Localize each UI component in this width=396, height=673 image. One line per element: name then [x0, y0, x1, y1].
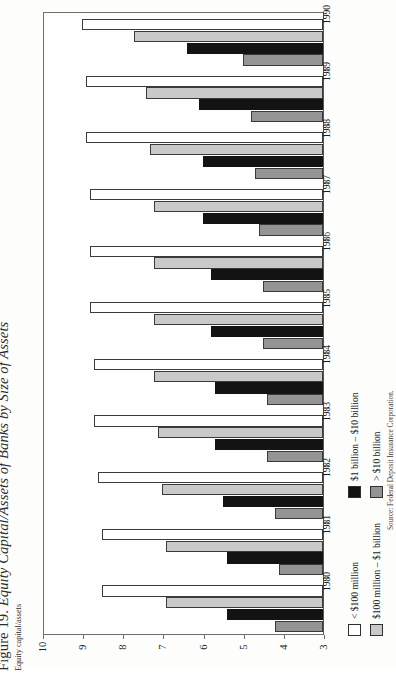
bar-1985-series-1 [90, 302, 323, 313]
value-tick-label-6: 6 [198, 634, 209, 660]
bar-1981-series-2 [166, 541, 323, 552]
bar-1985-series-3 [211, 326, 323, 337]
bar-1980-series-4 [275, 621, 323, 632]
bar-1983-series-3 [215, 439, 323, 450]
year-tick [324, 295, 329, 296]
value-tick-label-9: 9 [77, 634, 88, 660]
legend: < $100 million$100 million – $1 billion$… [332, 390, 392, 640]
source-note: Source: Federal Deposit Insurance Corpor… [386, 360, 395, 530]
bar-1985-series-4 [263, 338, 323, 349]
bar-1984-series-1 [94, 359, 323, 370]
bar-1983-series-1 [94, 415, 323, 426]
bar-1981-series-3 [227, 552, 323, 563]
bar-1986-series-3 [211, 269, 323, 280]
bar-1987-series-1 [90, 189, 323, 200]
year-label-1983: 1983 [321, 388, 332, 434]
value-tick-label-3: 3 [318, 634, 329, 660]
bar-1980-series-1 [102, 585, 323, 596]
legend-swatch-icon [348, 624, 361, 636]
value-axis-title: Equity capital/assets [14, 604, 23, 671]
value-tick-label-10: 10 [37, 634, 48, 660]
year-tick [324, 239, 329, 240]
bar-1990-series-1 [82, 19, 323, 30]
legend-item-3: $1 billion – $10 billion [346, 348, 362, 498]
plot-area [43, 12, 324, 635]
bar-1984-series-3 [215, 382, 323, 393]
bar-1987-series-2 [154, 201, 323, 212]
legend-label: $100 million – $1 billion [371, 523, 382, 619]
page-title: Figure 19. Equity Capital/Assets of Bank… [0, 322, 11, 671]
bar-1989-series-2 [146, 87, 323, 98]
year-label-1990: 1990 [321, 0, 332, 38]
bar-1988-series-3 [203, 156, 323, 167]
bar-1987-series-4 [259, 224, 323, 235]
bar-1986-series-1 [90, 246, 323, 257]
year-label-1985: 1985 [321, 275, 332, 321]
legend-label: > $10 billion [371, 431, 382, 481]
bar-1985-series-2 [154, 314, 323, 325]
bar-1984-series-2 [154, 371, 323, 382]
bar-1980-series-2 [166, 597, 323, 608]
year-tick [324, 522, 329, 523]
bars-layer [44, 13, 323, 634]
year-tick [324, 578, 329, 579]
bar-1990-series-3 [187, 43, 323, 54]
bar-1990-series-2 [134, 31, 323, 42]
figure-name: Equity Capital/Assets of Banks by Size o… [0, 322, 11, 607]
bar-1988-series-2 [150, 144, 323, 155]
bar-1990-series-4 [243, 54, 323, 65]
figure-title-block: Figure 19. Equity Capital/Assets of Bank… [0, 5, 41, 673]
year-tick [324, 408, 329, 409]
bar-1984-series-4 [267, 394, 323, 405]
year-tick [324, 465, 329, 466]
bar-1982-series-4 [275, 508, 323, 519]
legend-swatch-icon [348, 486, 361, 498]
year-tick [324, 182, 329, 183]
bar-1980-series-3 [227, 609, 323, 620]
year-label-1984: 1984 [321, 332, 332, 378]
value-tick-label-8: 8 [117, 634, 128, 660]
year-label-1982: 1982 [321, 445, 332, 491]
bar-1982-series-1 [98, 472, 323, 483]
bar-1986-series-2 [154, 257, 323, 268]
bar-1983-series-2 [158, 427, 323, 438]
legend-item-1: < $100 million [346, 486, 362, 636]
value-tick-label-7: 7 [157, 634, 168, 660]
figure-number: Figure 19. [0, 610, 11, 671]
bar-1989-series-4 [251, 111, 323, 122]
year-tick [324, 69, 329, 70]
legend-swatch-icon [370, 486, 383, 498]
legend-label: < $100 million [349, 562, 360, 619]
year-label-1986: 1986 [321, 218, 332, 264]
bar-1982-series-3 [223, 496, 323, 507]
legend-item-2: $100 million – $1 billion [368, 486, 384, 636]
value-tick-label-5: 5 [238, 634, 249, 660]
year-label-1989: 1989 [321, 48, 332, 94]
bar-1982-series-2 [162, 484, 323, 495]
legend-swatch-icon [370, 624, 383, 636]
year-label-1981: 1981 [321, 502, 332, 548]
year-tick [324, 125, 329, 126]
bar-1987-series-3 [203, 213, 323, 224]
bar-1989-series-3 [199, 99, 323, 110]
bar-1981-series-1 [102, 529, 323, 540]
bar-1981-series-4 [279, 564, 323, 575]
year-label-1987: 1987 [321, 162, 332, 208]
legend-label: $1 billion – $10 billion [349, 393, 360, 481]
bar-1988-series-4 [255, 168, 323, 179]
legend-item-4: > $10 billion [368, 348, 384, 498]
year-label-1988: 1988 [321, 105, 332, 151]
year-tick [324, 352, 329, 353]
value-tick-label-4: 4 [278, 634, 289, 660]
year-label-1980: 1980 [321, 558, 332, 604]
bar-1986-series-4 [263, 281, 323, 292]
bar-1983-series-4 [267, 451, 323, 462]
bar-1989-series-1 [86, 76, 323, 87]
bar-1988-series-1 [86, 132, 323, 143]
